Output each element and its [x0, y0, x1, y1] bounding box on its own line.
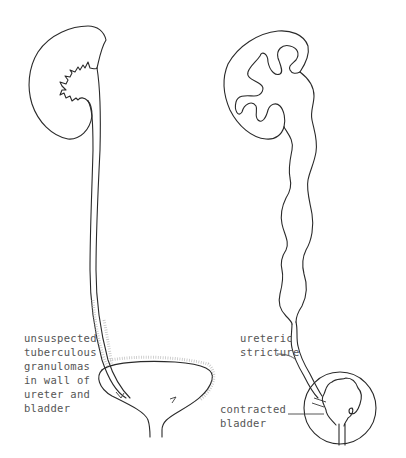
ureteric-orifice-mark-right	[170, 397, 176, 403]
contracted-bladder-label-line: bladder	[220, 417, 266, 429]
diagram-canvas: unsuspected tuberculous granulomas in wa…	[0, 0, 406, 458]
stricture-entry-mark-2	[312, 403, 324, 407]
stricture-label-line: stricture	[240, 346, 300, 358]
contracted-bladder-label: contracted bladder	[220, 403, 293, 429]
granuloma-label: unsuspected tuberculous granulomas in wa…	[24, 332, 103, 414]
granuloma-label-line: tuberculous	[24, 346, 97, 358]
granuloma-label-line: in wall of	[24, 374, 90, 386]
left-kidney-outline	[29, 26, 106, 139]
stricture-label: ureteric stricture	[240, 332, 300, 358]
hydroureter-right-wall	[296, 72, 317, 322]
granuloma-label-line: bladder	[24, 402, 70, 414]
granuloma-label-line: granulomas	[24, 360, 90, 372]
hydroureter-left-wall	[279, 127, 292, 324]
left-panel: unsuspected tuberculous granulomas in wa…	[24, 26, 214, 437]
contracted-bladder-wall	[304, 372, 376, 444]
granuloma-label-line: unsuspected	[24, 332, 97, 344]
right-panel: ureteric stricture contracted bladder	[220, 31, 376, 445]
stricture-label-line: ureteric	[240, 332, 293, 344]
stricture-entry-mark-1	[314, 398, 326, 402]
granuloma-label-line: ureter and	[24, 388, 90, 400]
contracted-bladder-label-line: contracted	[220, 403, 286, 415]
left-renal-calyces	[60, 62, 97, 101]
left-bladder-outline-left	[99, 370, 150, 437]
right-kidney-outline	[224, 31, 308, 139]
right-kidney-dilated-calyces	[235, 46, 300, 127]
contracted-bladder-lumen	[322, 378, 361, 426]
